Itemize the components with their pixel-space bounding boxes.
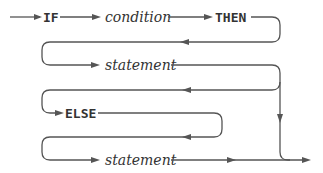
arrow-right-icon [227, 157, 236, 163]
arrow-left-icon [180, 39, 189, 45]
bypass-line [280, 82, 305, 160]
arrow-right-icon [55, 110, 64, 116]
keyword-if: IF [43, 10, 59, 25]
nonterminal-statement-2: statement [105, 152, 177, 168]
nonterminal-condition: condition [105, 9, 171, 25]
arrow-left-icon [182, 134, 191, 140]
arrow-right-icon [91, 157, 100, 163]
arrow-down-icon [277, 114, 283, 123]
arrow-right-icon [34, 14, 42, 20]
arrow-left-icon [182, 87, 191, 93]
arrow-right-icon [204, 14, 213, 20]
nonterminal-statement-1: statement [105, 57, 177, 73]
arrow-right-icon [92, 14, 101, 20]
arrow-right-icon [302, 157, 311, 163]
if-then-else-syntax-diagram: IF condition THEN statement ELSE stateme… [0, 0, 323, 173]
keyword-then: THEN [215, 10, 246, 25]
arrow-right-icon [91, 62, 100, 68]
keyword-else: ELSE [65, 106, 96, 121]
